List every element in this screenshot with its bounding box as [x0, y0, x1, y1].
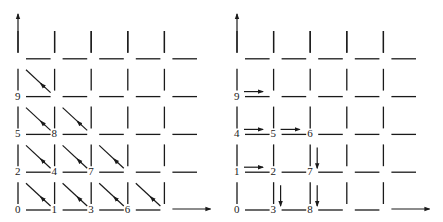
- cell-label: 8: [307, 203, 313, 215]
- cell-label: 8: [52, 127, 58, 139]
- diagonal-arrow-icon: [77, 197, 81, 201]
- diagonal-arrow-line: [63, 183, 88, 206]
- diagonal-arrow-line: [26, 70, 51, 93]
- diagonal-arrow-line: [63, 145, 88, 168]
- cell-label: 6: [125, 203, 131, 215]
- cell-label: 1: [234, 165, 240, 177]
- cell-label: 9: [234, 90, 240, 102]
- diagonal-arrow-icon: [114, 197, 118, 201]
- cell-label: 7: [88, 165, 94, 177]
- diagonal-arrow-icon: [114, 159, 118, 163]
- cell-label: 3: [88, 203, 94, 215]
- cell-label: 5: [271, 127, 277, 139]
- lattice-diagram: 0136247589 0381274569: [0, 0, 443, 222]
- cell-label: 4: [234, 127, 240, 139]
- cell-label: 4: [52, 165, 58, 177]
- cell-label: 9: [15, 90, 21, 102]
- diagonal-arrow-icon: [41, 83, 45, 87]
- cell-label: 2: [15, 165, 21, 177]
- diagonal-arrow-line: [26, 108, 51, 131]
- left-panel: 0136247589: [15, 14, 210, 215]
- cell-label: 7: [307, 165, 313, 177]
- diagonal-arrow-icon: [77, 121, 81, 125]
- cell-label: 2: [271, 165, 277, 177]
- right-panel: 0381274569: [234, 14, 429, 215]
- diagonal-arrow-icon: [151, 197, 155, 201]
- diagonal-arrow-line: [63, 108, 88, 131]
- diagonal-arrow-line: [99, 183, 124, 206]
- diagonal-arrow-icon: [41, 159, 45, 163]
- cell-label: 5: [15, 127, 21, 139]
- cell-label: 1: [52, 203, 58, 215]
- diagonal-arrow-icon: [41, 121, 45, 125]
- cell-label: 3: [271, 203, 277, 215]
- diagonal-arrow-line: [26, 183, 51, 206]
- diagonal-arrow-line: [99, 145, 124, 168]
- cell-label: 6: [307, 127, 313, 139]
- diagonal-arrow-line: [26, 145, 51, 168]
- diagonal-arrow-icon: [77, 159, 81, 163]
- cell-label: 0: [15, 203, 21, 215]
- diagonal-arrow-line: [136, 183, 161, 206]
- diagonal-arrow-icon: [41, 197, 45, 201]
- cell-label: 0: [234, 203, 240, 215]
